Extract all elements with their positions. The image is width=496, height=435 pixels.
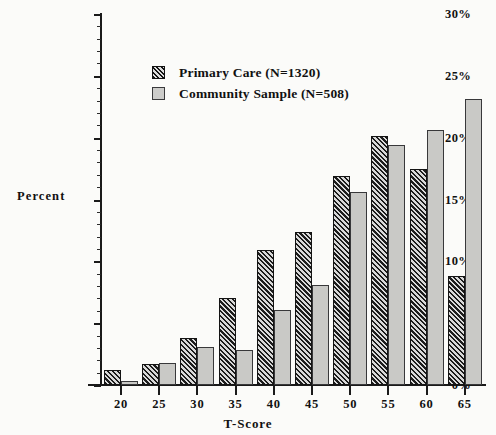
bar-group <box>448 14 482 385</box>
y-tick-minor <box>97 39 101 40</box>
y-tick-major <box>94 138 101 140</box>
bar-primary-care-40 <box>257 250 274 385</box>
x-tick <box>387 386 389 395</box>
solid-gray-swatch <box>152 87 165 100</box>
y-tick-major <box>94 323 101 325</box>
y-tick-minor <box>97 286 101 287</box>
bar-community-sample-25 <box>159 363 176 385</box>
y-tick-minor <box>97 51 101 52</box>
x-tick-label-30: 30 <box>190 397 204 412</box>
y-tick-major <box>94 261 101 263</box>
bar-community-sample-45 <box>312 285 329 385</box>
x-tick <box>158 386 160 395</box>
x-tick-label-45: 45 <box>305 397 319 412</box>
hatched-dark-swatch <box>152 66 165 79</box>
x-tick <box>464 386 466 395</box>
bar-community-sample-65 <box>465 99 482 385</box>
y-tick-major <box>94 14 101 16</box>
x-tick-label-60: 60 <box>420 397 434 412</box>
y-tick-minor <box>97 237 101 238</box>
y-tick-minor <box>97 88 101 89</box>
legend-label: Community Sample (N=508) <box>179 86 349 102</box>
legend-item: Primary Care (N=1320) <box>152 62 349 83</box>
x-tick-label-40: 40 <box>267 397 281 412</box>
x-tick <box>235 386 237 395</box>
bar-primary-care-60 <box>410 169 427 385</box>
y-tick-minor <box>97 101 101 102</box>
y-tick-minor <box>97 298 101 299</box>
y-tick-major <box>94 76 101 78</box>
bar-primary-care-25 <box>142 364 159 385</box>
bar-primary-care-55 <box>371 136 388 385</box>
bar-community-sample-40 <box>274 310 291 385</box>
bar-group <box>410 14 444 385</box>
y-tick-minor <box>97 187 101 188</box>
x-tick <box>196 386 198 395</box>
x-tick-label-65: 65 <box>458 397 472 412</box>
chart-legend: Primary Care (N=1320)Community Sample (N… <box>152 62 349 104</box>
y-tick-minor <box>97 26 101 27</box>
x-tick <box>426 386 428 395</box>
y-tick-minor <box>97 311 101 312</box>
y-axis-title: Percent <box>17 189 65 204</box>
bar-primary-care-50 <box>333 176 350 385</box>
y-tick-minor <box>97 63 101 64</box>
bar-primary-care-30 <box>180 338 197 385</box>
x-axis-title: T-Score <box>0 416 496 432</box>
bar-chart-figure: Percent 0%5%10%15%20%25%30% 202530354045… <box>0 0 496 435</box>
bar-primary-care-20 <box>104 370 121 385</box>
x-tick-label-20: 20 <box>114 397 128 412</box>
x-tick <box>273 386 275 395</box>
y-tick-minor <box>97 125 101 126</box>
x-tick <box>311 386 313 395</box>
bar-community-sample-30 <box>197 347 214 385</box>
bar-primary-care-35 <box>219 298 236 385</box>
bar-community-sample-60 <box>427 130 444 385</box>
y-tick-minor <box>97 224 101 225</box>
bar-community-sample-35 <box>236 350 253 385</box>
bar-primary-care-45 <box>295 232 312 385</box>
x-tick <box>120 386 122 395</box>
bar-community-sample-55 <box>388 145 405 385</box>
y-tick-minor <box>97 162 101 163</box>
y-tick-major <box>94 385 101 387</box>
bar-group <box>104 14 138 385</box>
legend-label: Primary Care (N=1320) <box>179 65 320 81</box>
x-tick-label-55: 55 <box>381 397 395 412</box>
y-tick-minor <box>97 113 101 114</box>
bar-group <box>371 14 405 385</box>
y-tick-minor <box>97 274 101 275</box>
legend-item: Community Sample (N=508) <box>152 83 349 104</box>
y-tick-major <box>94 200 101 202</box>
bar-community-sample-50 <box>350 192 367 385</box>
bar-community-sample-20 <box>121 381 138 385</box>
y-tick-minor <box>97 150 101 151</box>
bar-primary-care-65 <box>448 276 465 385</box>
x-tick <box>349 386 351 395</box>
y-tick-minor <box>97 249 101 250</box>
y-tick-minor <box>97 360 101 361</box>
y-tick-minor <box>97 348 101 349</box>
y-tick-minor <box>97 175 101 176</box>
x-tick-label-35: 35 <box>229 397 243 412</box>
y-tick-minor <box>97 212 101 213</box>
x-tick-label-25: 25 <box>152 397 166 412</box>
x-tick-label-50: 50 <box>343 397 357 412</box>
y-tick-minor <box>97 373 101 374</box>
y-tick-minor <box>97 336 101 337</box>
